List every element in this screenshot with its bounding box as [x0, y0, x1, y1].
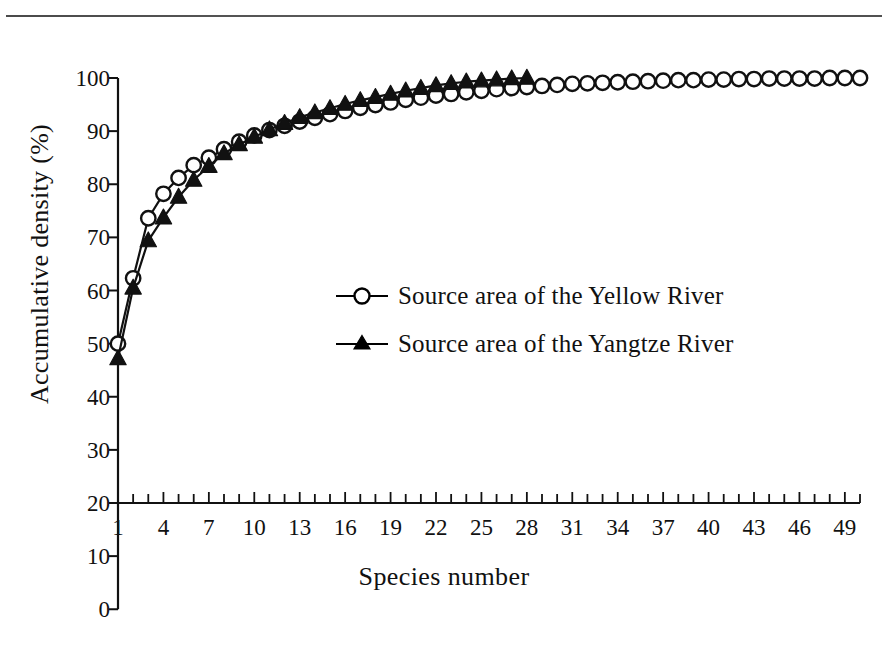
data-point-open-circle — [156, 187, 170, 201]
data-point-open-circle — [838, 71, 852, 85]
scanned-page: Accumulative density (%) Species number … — [0, 0, 888, 648]
horizontal-rule — [6, 15, 882, 17]
data-point-open-circle — [792, 71, 806, 85]
legend-label-yellow-river: Source area of the Yellow River — [398, 282, 724, 310]
data-point-open-circle — [853, 71, 867, 85]
data-point-filled-triangle — [110, 350, 126, 365]
data-point-open-circle — [580, 76, 594, 90]
data-point-open-circle — [686, 73, 700, 87]
data-point-open-circle — [535, 79, 549, 93]
data-point-open-circle — [611, 75, 625, 89]
filled-triangle-marker-icon — [334, 332, 390, 356]
data-point-open-circle — [717, 72, 731, 86]
legend-item-yellow-river: Source area of the Yellow River — [334, 272, 733, 320]
data-point-open-circle — [762, 71, 776, 85]
data-point-open-circle — [732, 72, 746, 86]
data-point-open-circle — [565, 77, 579, 91]
data-point-open-circle — [807, 71, 821, 85]
data-point-open-circle — [641, 74, 655, 88]
data-point-open-circle — [595, 76, 609, 90]
data-point-filled-triangle — [519, 69, 535, 84]
open-circle-marker-icon — [334, 284, 390, 308]
data-point-open-circle — [626, 75, 640, 89]
data-point-open-circle — [550, 78, 564, 92]
data-point-open-circle — [171, 171, 185, 185]
data-point-open-circle — [187, 158, 201, 172]
data-point-open-circle — [747, 72, 761, 86]
data-point-open-circle — [701, 72, 715, 86]
chart-legend: Source area of the Yellow River Source a… — [334, 272, 733, 368]
data-point-open-circle — [823, 71, 837, 85]
legend-item-yangtze-river: Source area of the Yangtze River — [334, 320, 733, 368]
data-point-open-circle — [656, 73, 670, 87]
cut-off-header-text — [0, 0, 888, 7]
data-point-open-circle — [671, 73, 685, 87]
data-point-open-circle — [141, 211, 155, 225]
legend-label-yangtze-river: Source area of the Yangtze River — [398, 330, 733, 358]
accumulative-density-chart: Accumulative density (%) Species number … — [0, 34, 888, 644]
data-point-open-circle — [777, 71, 791, 85]
